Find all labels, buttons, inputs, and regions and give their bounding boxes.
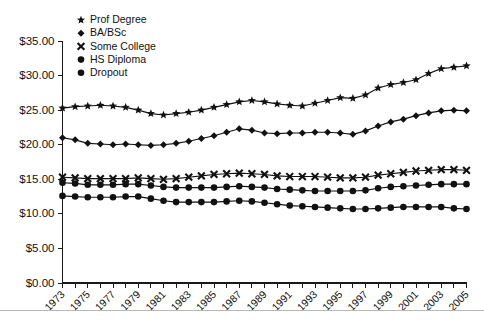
data-point-marker bbox=[122, 141, 129, 148]
data-point-marker bbox=[122, 103, 130, 111]
y-tick-label: $35.00 bbox=[19, 35, 54, 47]
data-point-marker bbox=[249, 184, 256, 191]
data-point-marker bbox=[223, 100, 231, 108]
data-point-marker bbox=[148, 195, 155, 202]
data-point-marker bbox=[350, 206, 357, 213]
legend-marker-prof-degree bbox=[77, 16, 85, 24]
legend-label-dropout: Dropout bbox=[90, 66, 127, 78]
x-tick-label: 1993 bbox=[294, 288, 319, 313]
data-point-marker bbox=[324, 96, 332, 104]
data-point-marker bbox=[211, 199, 218, 206]
legend-label-ba-bsc: BA/BSc bbox=[90, 26, 126, 38]
x-tick-label: 2005 bbox=[446, 288, 471, 313]
data-point-marker bbox=[248, 96, 256, 104]
legend-marker-dropout bbox=[78, 70, 85, 77]
y-tick-label: $5.00 bbox=[26, 242, 55, 254]
data-point-marker bbox=[260, 98, 268, 106]
data-point-marker bbox=[375, 205, 382, 212]
data-point-marker bbox=[96, 101, 104, 109]
data-point-marker bbox=[84, 194, 91, 201]
data-point-marker bbox=[438, 204, 445, 211]
data-series-group bbox=[58, 62, 470, 213]
data-point-marker bbox=[311, 99, 319, 107]
data-point-marker bbox=[236, 197, 243, 204]
y-tick-label: $0.00 bbox=[26, 277, 55, 289]
data-point-marker bbox=[299, 129, 306, 136]
data-point-marker bbox=[399, 78, 407, 86]
x-tick-label: 1977 bbox=[92, 288, 117, 313]
data-point-marker bbox=[135, 181, 142, 188]
data-point-marker bbox=[337, 188, 344, 195]
data-point-marker bbox=[324, 204, 331, 211]
x-tick-label: 1991 bbox=[269, 288, 294, 313]
x-tick-label: 1985 bbox=[193, 288, 218, 313]
data-point-marker bbox=[71, 102, 79, 110]
data-point-marker bbox=[147, 109, 155, 117]
data-point-marker bbox=[286, 186, 293, 193]
data-point-marker bbox=[463, 107, 470, 114]
data-point-marker bbox=[185, 199, 192, 206]
data-point-marker bbox=[72, 180, 79, 187]
data-point-marker bbox=[387, 184, 394, 191]
x-tick-label: 1975 bbox=[67, 288, 92, 313]
data-point-marker bbox=[97, 194, 104, 201]
data-point-marker bbox=[110, 141, 117, 148]
chart-container: $0.00$5.00$10.00$15.00$20.00$25.00$30.00… bbox=[0, 0, 484, 326]
data-point-marker bbox=[273, 100, 281, 108]
x-tick-label: 1987 bbox=[219, 288, 244, 313]
data-point-marker bbox=[122, 193, 129, 200]
data-point-marker bbox=[274, 201, 281, 208]
legend-marker-ba-bsc bbox=[78, 30, 85, 37]
x-tick-label: 1989 bbox=[244, 288, 269, 313]
data-point-marker bbox=[298, 102, 306, 110]
legend-label-hs-diploma: HS Diploma bbox=[90, 53, 146, 65]
data-point-marker bbox=[59, 179, 66, 186]
data-point-marker bbox=[97, 182, 104, 189]
data-point-marker bbox=[134, 106, 142, 114]
data-point-marker bbox=[84, 182, 91, 189]
x-tick-label: 2003 bbox=[421, 288, 446, 313]
data-point-marker bbox=[387, 204, 394, 211]
data-point-marker bbox=[59, 134, 66, 141]
data-point-marker bbox=[160, 184, 167, 191]
x-tick-label: 1997 bbox=[345, 288, 370, 313]
data-point-marker bbox=[312, 188, 319, 195]
data-point-marker bbox=[387, 118, 394, 125]
data-point-marker bbox=[336, 93, 344, 101]
data-point-marker bbox=[173, 140, 180, 147]
data-point-marker bbox=[299, 203, 306, 210]
data-point-marker bbox=[337, 205, 344, 212]
chart-legend: Prof DegreeBA/BScSome CollegeHS DiplomaD… bbox=[77, 13, 156, 78]
data-point-marker bbox=[413, 182, 420, 189]
data-point-marker bbox=[248, 127, 255, 134]
data-point-marker bbox=[312, 129, 319, 136]
data-point-marker bbox=[160, 197, 167, 204]
data-point-marker bbox=[349, 94, 357, 102]
data-point-marker bbox=[122, 181, 129, 188]
legend-label-prof-degree: Prof Degree bbox=[90, 13, 147, 25]
data-point-marker bbox=[312, 204, 319, 211]
y-tick-label: $20.00 bbox=[19, 138, 54, 150]
data-point-marker bbox=[463, 206, 470, 213]
y-tick-label: $10.00 bbox=[19, 207, 54, 219]
data-point-marker bbox=[286, 202, 293, 209]
data-point-marker bbox=[261, 199, 268, 206]
data-point-marker bbox=[261, 184, 268, 191]
data-point-marker bbox=[173, 199, 180, 206]
data-point-marker bbox=[451, 181, 458, 188]
data-point-marker bbox=[375, 185, 382, 192]
data-point-marker bbox=[425, 204, 432, 211]
y-tick-label: $15.00 bbox=[19, 173, 54, 185]
data-point-marker bbox=[400, 204, 407, 211]
data-point-marker bbox=[236, 125, 243, 132]
data-point-marker bbox=[109, 102, 117, 110]
legend-label-some-college: Some College bbox=[90, 40, 156, 52]
x-tick-label: 1983 bbox=[168, 288, 193, 313]
data-point-marker bbox=[223, 198, 230, 205]
data-point-marker bbox=[261, 129, 268, 136]
x-tick-label: 1981 bbox=[143, 288, 168, 313]
data-point-marker bbox=[274, 130, 281, 137]
data-point-marker bbox=[197, 106, 205, 114]
data-point-marker bbox=[286, 101, 294, 109]
y-tick-label: $30.00 bbox=[19, 69, 54, 81]
